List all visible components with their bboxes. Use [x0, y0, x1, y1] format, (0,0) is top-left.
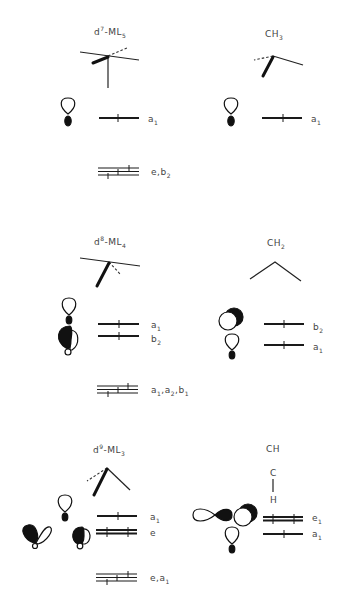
ml5-structure: [80, 48, 139, 88]
panel-title-d8-ml4: d8-ML4: [94, 235, 126, 249]
level-stack-e-b2: e,b2: [98, 165, 171, 179]
level-label-a1: a1: [150, 512, 160, 524]
p-orbital-icon: [234, 504, 257, 526]
p-orbital-icon: [219, 308, 243, 330]
hybrid-orbital-icon: [224, 98, 238, 126]
level-a1: a1: [99, 114, 158, 126]
panel-title-ch2: CH2: [267, 238, 285, 250]
panel-d9-ml3: d9-ML3 a1: [23, 443, 170, 585]
hybrid-orbital-icon: [225, 527, 239, 553]
level-stack-a1-a2-b1: a1,a2,b1: [97, 383, 189, 397]
level-label-e: e: [150, 528, 156, 538]
level-label-b2: b2: [313, 322, 324, 334]
atom-h: H: [270, 495, 277, 505]
panel-ch: CH C H e1 a1: [193, 444, 322, 553]
level-e: e: [96, 527, 156, 538]
e-orbital-icon-right: [73, 527, 90, 549]
atom-c: C: [270, 468, 277, 478]
level-a1: a1: [262, 114, 321, 126]
level-label-b2: b2: [151, 334, 162, 346]
panel-title-d9-ml3: d9-ML3: [93, 443, 125, 457]
b2-orbital-icon: [59, 326, 78, 355]
level-label-a1: a1: [312, 529, 322, 541]
e-orbital-icon-left: [23, 525, 52, 549]
level-e1: e1: [263, 513, 322, 525]
panel-ch3: CH3 a1: [224, 29, 321, 126]
level-label-a1: a1: [313, 342, 323, 354]
panel-title-ch3: CH3: [265, 29, 283, 41]
level-stack-e-a1: e,a1: [96, 571, 170, 585]
ch-structure: C H: [270, 468, 277, 505]
level-a1: a1: [264, 341, 323, 354]
hybrid-orbital-icon: [58, 495, 72, 521]
level-label-a1: a1: [151, 320, 161, 332]
level-label-a1: a1: [148, 114, 158, 126]
level-a1: a1: [97, 512, 160, 524]
panel-title-d7-ml5: d7-ML5: [94, 25, 126, 39]
ml4-structure: [80, 258, 140, 286]
panel-title-ch: CH: [266, 444, 280, 454]
hybrid-orbital-icon: [61, 98, 75, 126]
level-label-e-a1: e,a1: [150, 573, 170, 585]
ch3-structure: [254, 56, 303, 76]
panel-ch2: CH2 b2 a1: [219, 238, 324, 359]
isolobal-analogy-diagram: d7-ML5 a1 e,b2 C: [0, 0, 340, 600]
hybrid-orbital-icon: [225, 334, 239, 359]
level-b2: b2: [98, 332, 162, 346]
level-b2: b2: [264, 320, 324, 334]
level-a1: a1: [263, 529, 322, 541]
level-label-a1: a1: [311, 114, 321, 126]
hybrid-orbital-icon: [62, 298, 76, 324]
level-a1: a1: [98, 320, 161, 332]
ml3-structure: [87, 468, 130, 495]
ch2-structure: [250, 262, 301, 281]
level-label-e1: e1: [312, 513, 322, 525]
p-orbital-horizontal-icon: [193, 509, 232, 521]
level-label-a1-a2-b1: a1,a2,b1: [151, 385, 189, 397]
panel-d7-ml5: d7-ML5 a1 e,b2: [61, 25, 171, 179]
panel-d8-ml4: d8-ML4 a1 b2: [59, 235, 189, 397]
level-label-e-b2: e,b2: [151, 167, 171, 179]
